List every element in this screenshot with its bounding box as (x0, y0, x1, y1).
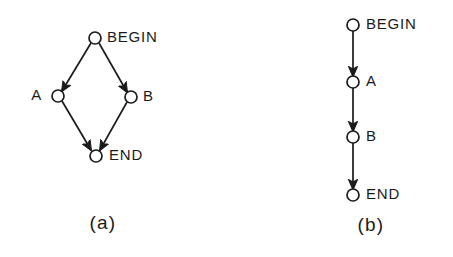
panel-a-nodes: BEGIN A B END (31, 28, 158, 163)
node-b-circle (125, 91, 137, 103)
node-begin-label-seq: BEGIN (366, 15, 417, 32)
node-end-label-seq: END (366, 185, 400, 202)
node-begin-label: BEGIN (107, 28, 158, 45)
figure-container: BEGIN A B END (a) BEGIN A (0, 0, 453, 257)
edge-b-to-end (100, 102, 127, 150)
panel-b-caption: (b) (358, 214, 385, 235)
edge-begin-to-a (62, 43, 91, 91)
panel-b: BEGIN A B END (b) (347, 15, 417, 235)
node-begin-circle (89, 32, 101, 44)
node-b-label-seq: B (366, 127, 377, 144)
edge-begin-to-b (99, 43, 127, 92)
panel-a-edges (62, 43, 127, 150)
diagram-canvas: BEGIN A B END (a) BEGIN A (0, 0, 453, 257)
node-a-circle (52, 90, 64, 102)
node-a-circle-seq (347, 76, 359, 88)
panel-b-nodes: BEGIN A B END (347, 15, 417, 202)
node-end-label: END (109, 146, 143, 163)
node-b-circle-seq (347, 131, 359, 143)
node-a-label-seq: A (366, 72, 377, 89)
node-end-circle (90, 150, 102, 162)
panel-a: BEGIN A B END (a) (31, 28, 158, 233)
panel-a-caption: (a) (90, 212, 117, 233)
node-begin-circle-seq (347, 19, 359, 31)
node-end-circle-seq (347, 189, 359, 201)
node-a-label: A (31, 86, 42, 103)
edge-a-to-end (62, 101, 91, 150)
node-b-label: B (143, 87, 154, 104)
